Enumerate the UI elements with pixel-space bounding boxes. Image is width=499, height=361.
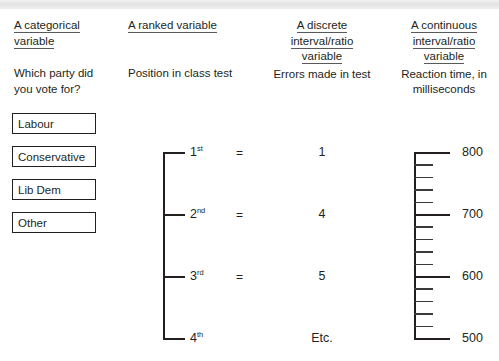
column-heading-ranked: A ranked variable [128, 18, 250, 34]
column-ranked: A ranked variable Position in class test [128, 18, 250, 81]
discrete-value-3: 5 [286, 269, 358, 283]
continuous-minor-tick [414, 326, 433, 328]
heading-line: variable [14, 34, 54, 49]
equals-sign-row-1: = [236, 146, 243, 160]
subhead-line: Which party did [14, 67, 93, 79]
subhead-line: Reaction time, in [401, 68, 487, 80]
continuous-minor-tick [414, 251, 433, 253]
rank-number: 4 [190, 331, 197, 345]
ranked-tick-3 [163, 276, 185, 278]
heading-line: variable [424, 49, 464, 64]
discrete-value-1: 1 [286, 145, 358, 159]
rank-suffix: st [197, 144, 203, 153]
rank-label-1st: 1st [190, 145, 203, 159]
rank-suffix: rd [197, 268, 204, 277]
rank-number: 2 [190, 207, 197, 221]
continuous-label-700: 700 [462, 207, 483, 221]
heading-line: A discrete [297, 18, 348, 33]
heading-line: A continuous [411, 18, 477, 33]
continuous-label-800: 800 [462, 145, 483, 159]
continuous-minor-tick [414, 177, 433, 179]
discrete-value-2: 4 [286, 207, 358, 221]
continuous-minor-tick [414, 239, 433, 241]
category-box-other: Other [12, 212, 96, 233]
ranked-scale-spine [163, 152, 165, 340]
subhead-line: you vote for? [14, 83, 80, 95]
continuous-label-600: 600 [462, 269, 483, 283]
continuous-minor-tick [414, 264, 433, 266]
continuous-minor-tick [414, 226, 433, 228]
heading-line: A ranked variable [128, 18, 217, 33]
category-box-conservative: Conservative [12, 146, 96, 167]
continuous-scale [414, 152, 454, 340]
column-heading-categorical: A categorical variable [14, 18, 126, 49]
column-subhead-ranked: Position in class test [128, 66, 250, 82]
equals-sign-row-2: = [236, 208, 243, 222]
ranked-tick-4 [163, 338, 185, 340]
equals-sign-row-3: = [236, 270, 243, 284]
subhead-line: Errors made in test [273, 68, 370, 80]
category-box-labour: Labour [12, 113, 96, 134]
rank-number: 1 [190, 145, 197, 159]
column-continuous: A continuous interval/ratio variable Rea… [392, 18, 496, 98]
rank-label-3rd: 3rd [190, 269, 204, 283]
continuous-minor-tick [414, 189, 433, 191]
subhead-line: Position in class test [128, 67, 232, 79]
subhead-line: milliseconds [413, 83, 476, 95]
column-discrete: A discrete interval/ratio variable Error… [256, 18, 388, 82]
ranked-tick-1 [163, 152, 185, 154]
ranked-tick-2 [163, 214, 185, 216]
rank-label-4th: 4th [190, 331, 203, 345]
heading-line: interval/ratio [291, 34, 354, 49]
category-box-libdem: Lib Dem [12, 179, 96, 200]
continuous-scale-spine [414, 152, 416, 340]
discrete-value-4: Etc. [286, 331, 358, 345]
continuous-minor-tick [414, 288, 433, 290]
heading-line: variable [302, 49, 342, 64]
continuous-major-tick-600 [414, 276, 450, 278]
column-subhead-categorical: Which party did you vote for? [14, 66, 126, 97]
continuous-major-tick-700 [414, 214, 450, 216]
continuous-minor-tick [414, 313, 433, 315]
figure-canvas: A categorical variable Which party did y… [0, 0, 499, 361]
continuous-major-tick-800 [414, 152, 450, 154]
heading-line: A categorical [14, 18, 80, 33]
ranked-scale [163, 152, 189, 340]
continuous-label-500: 500 [462, 331, 483, 345]
heading-line: interval/ratio [413, 34, 476, 49]
continuous-minor-tick [414, 202, 433, 204]
continuous-minor-tick [414, 164, 433, 166]
column-heading-continuous: A continuous interval/ratio variable [392, 18, 496, 65]
column-categorical: A categorical variable Which party did y… [14, 18, 126, 97]
continuous-major-tick-500 [414, 338, 450, 340]
continuous-minor-tick [414, 301, 433, 303]
rank-label-2nd: 2nd [190, 207, 205, 221]
categorical-options-list: Labour Conservative Lib Dem Other [12, 113, 96, 245]
column-subhead-continuous: Reaction time, in milliseconds [392, 67, 496, 98]
rank-suffix: nd [197, 206, 205, 215]
page-top-band [0, 0, 499, 9]
column-heading-discrete: A discrete interval/ratio variable [256, 18, 388, 65]
column-subhead-discrete: Errors made in test [256, 67, 388, 83]
rank-number: 3 [190, 269, 197, 283]
rank-suffix: th [197, 330, 203, 339]
